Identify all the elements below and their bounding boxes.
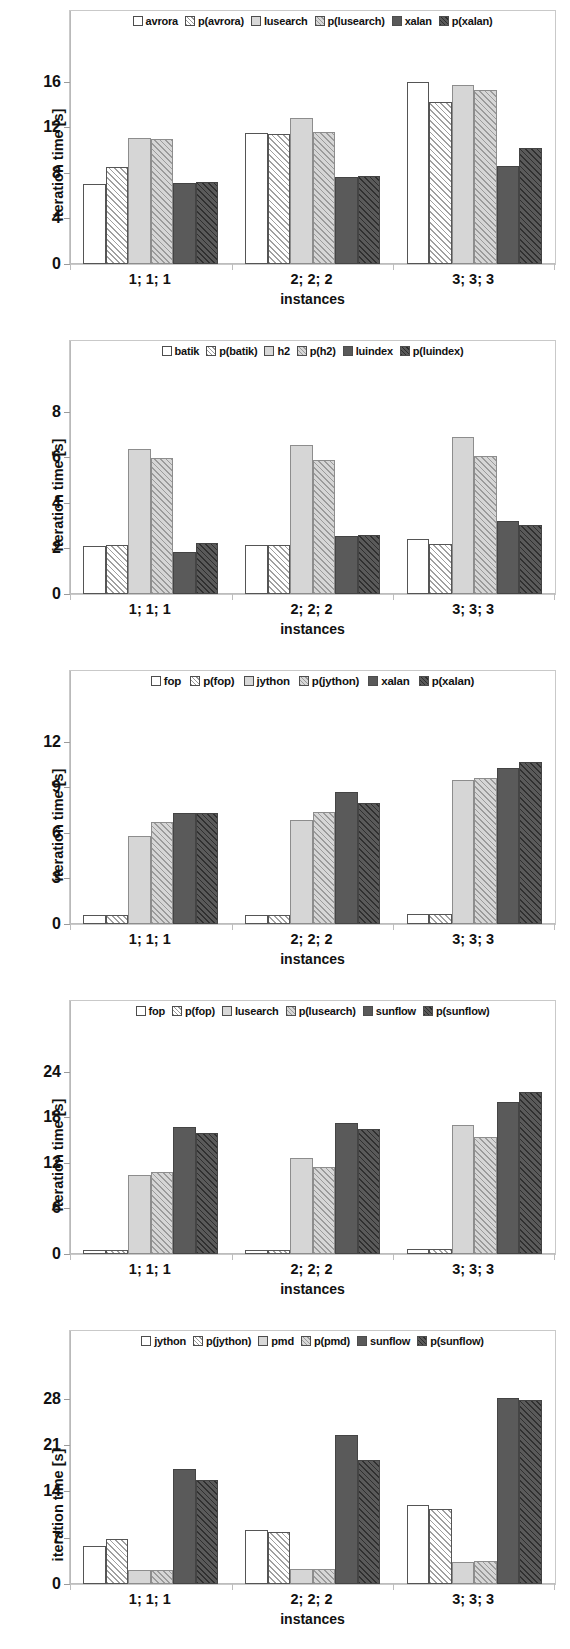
x-axis-title: instances [69,1611,556,1627]
bar [83,1546,106,1584]
bar [474,778,497,924]
chart-3: iteration time [s]fopp(fop)jythonp(jytho… [0,660,570,990]
y-tick-label: 4 [52,494,61,512]
bar [106,1250,129,1254]
bar [128,1175,151,1254]
plot-frame: fopp(fop)lusearchp(lusearch)sunflowp(sun… [69,1000,556,1255]
y-tick-label: 24 [43,1063,61,1081]
y-tick-label: 8 [52,403,61,421]
bar [497,768,520,924]
y-tick-label: 8 [52,164,61,182]
bar [313,812,336,924]
bar [290,118,313,264]
x-tick [70,264,71,270]
bar [497,1102,520,1254]
y-tick-label: 21 [43,1436,61,1454]
y-axis-line [70,11,71,264]
x-axis-title: instances [69,291,556,307]
y-axis-line [70,341,71,594]
plot-area: 06121824 [70,1001,555,1254]
bar [196,182,219,264]
x-group-label: 1; 1; 1 [129,601,171,617]
y-tick [64,742,70,743]
x-group-labels: 1; 1; 12; 2; 23; 3; 3 [69,931,556,951]
plot-area: 0481216 [70,11,555,264]
bar [173,183,196,264]
x-group-label: 2; 2; 2 [291,931,333,947]
bar [83,1250,106,1254]
y-tick [64,1538,70,1539]
bar [313,460,336,594]
y-tick-label: 28 [43,1390,61,1408]
y-tick-label: 6 [52,448,61,466]
bar [268,1532,291,1584]
x-tick [232,594,233,600]
x-tick [70,594,71,600]
x-tick [554,924,555,930]
y-tick [64,1208,70,1209]
bar [128,138,151,264]
x-group-label: 2; 2; 2 [291,1591,333,1607]
bar [335,177,358,264]
bar [290,1158,313,1254]
bar [429,914,452,924]
bar [83,184,106,264]
y-tick [64,127,70,128]
figure-page: iteration time [s]avrorap(avrora)lusearc… [0,0,570,1649]
y-tick [64,82,70,83]
y-tick-label: 6 [52,824,61,842]
plot-area: 07142128 [70,1331,555,1584]
bar [429,1509,452,1584]
bar [196,813,219,924]
bar [358,176,381,264]
bar [452,437,475,594]
x-tick [393,594,394,600]
x-group-label: 3; 3; 3 [452,601,494,617]
bar [313,1167,336,1254]
y-tick [64,218,70,219]
bar [83,546,106,594]
y-tick-label: 12 [43,118,61,136]
y-tick-label: 14 [43,1482,61,1500]
x-group-labels: 1; 1; 12; 2; 23; 3; 3 [69,271,556,291]
bar [128,449,151,594]
bar [245,1250,268,1254]
x-group-labels: 1; 1; 12; 2; 23; 3; 3 [69,601,556,621]
y-tick-label: 3 [52,869,61,887]
bar [358,1129,381,1254]
y-tick [64,548,70,549]
bar [358,803,381,924]
bar [429,1249,452,1254]
bar [452,780,475,924]
bar [429,102,452,264]
y-tick [64,1445,70,1446]
bar [407,82,430,264]
bar [173,813,196,924]
x-group-label: 2; 2; 2 [291,1261,333,1277]
y-tick-label: 12 [43,733,61,751]
bar [106,1539,129,1584]
bar [407,914,430,924]
x-axis-title: instances [69,951,556,967]
bar [196,1133,219,1254]
plot-frame: jythonp(jython)pmdp(pmd)sunflowp(sunflow… [69,1330,556,1585]
chart-stack: iteration time [s]avrorap(avrora)lusearc… [0,0,570,1649]
x-group-label: 1; 1; 1 [129,931,171,947]
bar [452,1125,475,1254]
bar [407,1249,430,1254]
x-tick [232,924,233,930]
x-tick [393,264,394,270]
x-tick [554,1254,555,1260]
plot-frame: avrorap(avrora)lusearchp(lusearch)xalanp… [69,10,556,265]
plot-frame: fopp(fop)jythonp(jython)xalanp(xalan)036… [69,670,556,925]
bar [358,535,381,594]
y-tick [64,1072,70,1073]
plot-area: 02468 [70,341,555,594]
x-group-label: 3; 3; 3 [452,1261,494,1277]
bar [474,1137,497,1254]
y-tick-label: 18 [43,1108,61,1126]
y-tick [64,173,70,174]
x-tick [554,1584,555,1590]
bar [268,1250,291,1254]
y-tick-label: 16 [43,73,61,91]
